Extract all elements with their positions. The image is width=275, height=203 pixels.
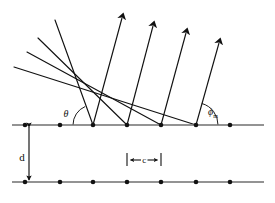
atom-dot bbox=[91, 123, 96, 128]
atom-dot bbox=[23, 123, 28, 128]
d-label: d bbox=[19, 151, 25, 163]
incoming-ray-2 bbox=[38, 38, 127, 125]
lower-plane-group bbox=[12, 180, 264, 185]
atom-dot bbox=[194, 180, 199, 185]
atom-dot bbox=[228, 123, 233, 128]
atom-dot bbox=[125, 123, 130, 128]
atom-dot bbox=[23, 180, 28, 185]
c-label: c bbox=[142, 155, 146, 165]
angle-arc-group bbox=[73, 104, 218, 126]
atom-dot bbox=[125, 180, 130, 185]
atom-dot bbox=[194, 123, 199, 128]
diagram-canvas: d c θ ϕm bbox=[0, 0, 275, 203]
atom-dot bbox=[228, 180, 233, 185]
phi-m-label: ϕm bbox=[208, 106, 218, 119]
incoming-ray-3 bbox=[27, 52, 161, 125]
diffraction-diagram: d c θ ϕm bbox=[0, 0, 275, 203]
atom-dot bbox=[91, 180, 96, 185]
atom-dot bbox=[58, 180, 63, 185]
atom-dot bbox=[58, 123, 63, 128]
theta-angle-arc bbox=[73, 107, 85, 126]
atom-dot bbox=[159, 123, 164, 128]
phi-m-label-subscript: m bbox=[213, 113, 218, 119]
outgoing-ray-group bbox=[93, 18, 219, 125]
outgoing-ray-1 bbox=[93, 18, 122, 125]
theta-label: θ bbox=[64, 108, 69, 119]
atom-dot bbox=[159, 180, 164, 185]
outgoing-ray-3 bbox=[161, 33, 186, 125]
svg-text:ϕm: ϕm bbox=[208, 106, 218, 119]
upper-plane-group bbox=[12, 123, 264, 128]
incoming-ray-group bbox=[14, 20, 196, 125]
